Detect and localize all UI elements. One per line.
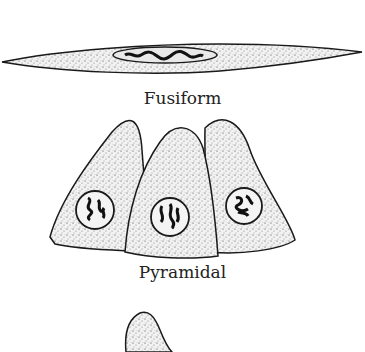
fusiform-cell bbox=[2, 44, 362, 73]
pyramidal-nucleus-right bbox=[226, 188, 262, 224]
cell-shapes-diagram bbox=[0, 0, 365, 352]
partial-cell bbox=[126, 312, 172, 352]
pyramidal-cells bbox=[50, 120, 295, 258]
fusiform-label: Fusiform bbox=[0, 88, 365, 108]
pyramidal-label: Pyramidal bbox=[0, 262, 365, 282]
pyramidal-nucleus-left bbox=[76, 191, 114, 229]
